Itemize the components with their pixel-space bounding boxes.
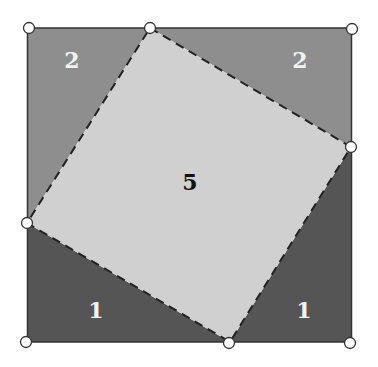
vertex-top-left [24,23,35,34]
label-bottom-left: 1 [88,297,103,323]
label-center: 5 [182,169,197,195]
vertex-top-right [347,24,358,35]
vertex-left-mid [22,218,33,229]
vertex-bottom-left [21,337,32,348]
vertex-top-mid [145,23,156,34]
label-top-left: 2 [64,47,79,73]
vertex-bottom-mid [224,338,235,349]
vertex-right-mid [346,142,357,153]
vertex-bottom-right [345,338,356,349]
pythagorean-diagram: 2 2 1 1 5 [0,0,378,367]
label-bottom-right: 1 [296,297,311,323]
label-top-right: 2 [292,47,307,73]
